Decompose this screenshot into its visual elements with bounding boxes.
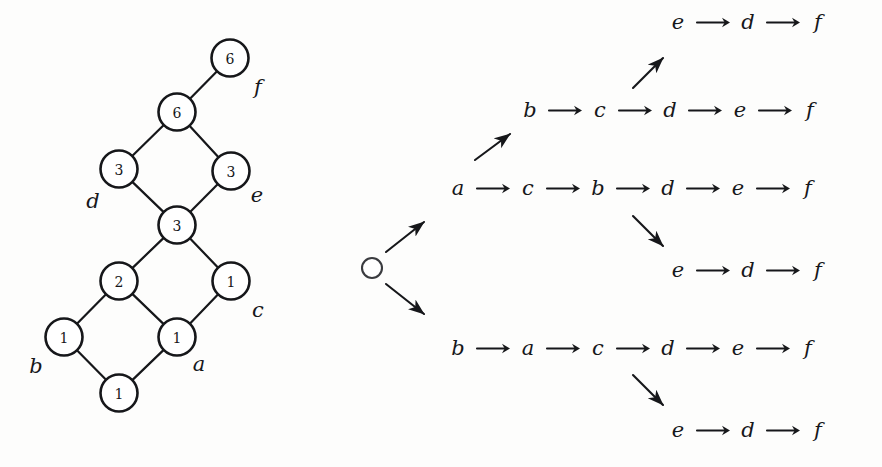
sequence-item: f [800, 100, 820, 121]
branch-arrow-to-row-4 [633, 216, 663, 246]
sequence-item: e [730, 100, 750, 121]
lattice-edge [77, 294, 106, 324]
branch-arrow-root-down [386, 284, 424, 314]
lattice-element-label-c: c [252, 300, 264, 321]
sequence-item: d [738, 420, 758, 441]
lattice-edge [132, 182, 163, 212]
lattice-edge [190, 71, 217, 99]
sequence-arrow-icon [748, 181, 798, 195]
sequence-item: c [518, 178, 538, 199]
sequence-row: edf [668, 420, 828, 441]
lattice-node: 6 [159, 94, 196, 131]
sequence-item: f [798, 178, 818, 199]
lattice-node: 3 [101, 151, 138, 188]
sequence-item: a [518, 338, 538, 359]
sequence-item: d [738, 260, 758, 281]
lattice-graph: 6633321111 [0, 0, 300, 467]
sequence-item: e [728, 338, 748, 359]
lattice-element-label-f: f [254, 77, 262, 98]
sequence-arrow-icon [758, 423, 808, 437]
lattice-element-label-b: b [29, 356, 42, 377]
lattice-node-count: 1 [115, 386, 124, 402]
sequence-item: d [738, 12, 758, 33]
branch-arrow-to-row-6 [633, 375, 663, 405]
lattice-edge [132, 238, 163, 268]
sequence-item: e [668, 260, 688, 281]
lattice-node: 2 [101, 263, 138, 300]
sequence-arrow-icon [688, 15, 738, 29]
sequence-arrow-icon [688, 423, 738, 437]
lattice-edge [132, 294, 163, 324]
lattice-node-count: 1 [227, 274, 236, 290]
lattice-node-count: 3 [227, 164, 236, 180]
sequence-arrow-icon [540, 103, 590, 117]
sequence-arrow-icon [758, 263, 808, 277]
lattice-node-group: 6633321111 [46, 40, 250, 412]
tree-arrow-layer [330, 0, 882, 467]
sequence-arrow-icon [468, 341, 518, 355]
lattice-node: 1 [101, 375, 138, 412]
figure-canvas: 6633321111 bacdef edfbcdefacbdefedfbacde… [0, 0, 882, 467]
sequence-item: e [728, 178, 748, 199]
lattice-element-label-a: a [193, 354, 206, 375]
sequence-item: d [658, 178, 678, 199]
sequence-item: b [448, 338, 468, 359]
sequence-arrow-icon [610, 103, 660, 117]
lattice-node-count: 6 [226, 51, 235, 67]
lattice-edge-group [77, 71, 219, 380]
sequence-item: a [448, 178, 468, 199]
sequence-item: e [668, 420, 688, 441]
branch-arrow-root-up [386, 222, 424, 252]
lattice-node: 3 [213, 153, 250, 190]
sequence-item: f [798, 338, 818, 359]
lattice-node-count: 1 [60, 330, 69, 346]
lattice-edge [190, 238, 218, 267]
lattice-node-count: 3 [115, 162, 124, 178]
lattice-node: 1 [46, 319, 83, 356]
sequence-arrow-icon [678, 181, 728, 195]
lattice-figure: 6633321111 bacdef [0, 0, 300, 467]
sequence-row: bcdef [520, 100, 820, 121]
lattice-node-count: 2 [115, 274, 124, 290]
sequence-item: d [660, 100, 680, 121]
sequence-arrow-icon [758, 15, 808, 29]
branch-arrow-to-row-1 [633, 58, 663, 88]
sequence-row: edf [668, 12, 828, 33]
sequence-arrow-icon [678, 341, 728, 355]
lattice-node: 1 [159, 319, 196, 356]
lattice-element-label-d: d [86, 191, 99, 212]
sequence-arrow-icon [750, 103, 800, 117]
sequence-item: c [590, 100, 610, 121]
sequence-item: c [588, 338, 608, 359]
lattice-node-count: 3 [173, 218, 182, 234]
sequence-arrow-icon [538, 181, 588, 195]
lattice-node: 1 [213, 263, 250, 300]
lattice-node: 6 [212, 40, 249, 77]
branch-arrow-to-row-2 [475, 134, 510, 160]
lattice-edge [77, 350, 106, 380]
sequence-arrow-icon [538, 341, 588, 355]
lattice-node: 3 [159, 207, 196, 244]
linear-extension-tree-figure: edfbcdefacbdefedfbacdefedf [330, 0, 882, 467]
lattice-edge [132, 350, 163, 380]
sequence-arrow-icon [748, 341, 798, 355]
lattice-edge [132, 125, 164, 156]
sequence-arrow-icon [688, 263, 738, 277]
lattice-element-label-e: e [251, 185, 263, 206]
sequence-row: acbdef [448, 178, 818, 199]
sequence-item: f [808, 420, 828, 441]
sequence-item: b [588, 178, 608, 199]
sequence-row: bacdef [448, 338, 818, 359]
lattice-edge [189, 126, 218, 158]
lattice-node-count: 1 [173, 330, 182, 346]
sequence-item: d [658, 338, 678, 359]
sequence-item: e [668, 12, 688, 33]
sequence-item: f [808, 260, 828, 281]
sequence-arrow-icon [608, 341, 658, 355]
lattice-edge [190, 294, 218, 323]
sequence-item: b [520, 100, 540, 121]
sequence-item: f [808, 12, 828, 33]
lattice-edge [190, 184, 218, 212]
sequence-arrow-icon [680, 103, 730, 117]
sequence-arrow-icon [468, 181, 518, 195]
